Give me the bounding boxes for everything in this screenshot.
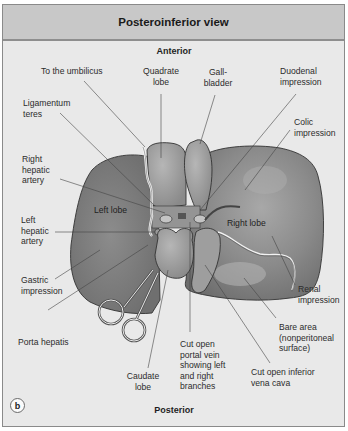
caudate-lobe-shape: [155, 228, 194, 278]
gallbladder-shape: [184, 140, 212, 210]
label-left-hepatic-artery: Left hepatic artery: [21, 215, 49, 247]
label-ligamentum-teres: Ligamentum teres: [23, 98, 70, 119]
label-gastric-impression: Gastric impression: [21, 275, 63, 296]
label-cut-open-portal-vein: Cut open portal vein showing left and ri…: [180, 339, 225, 392]
label-colic-impression: Colic impression: [294, 117, 336, 138]
label-right-lobe: Right lobe: [227, 218, 266, 229]
label-porta-hepatis: Porta hepatis: [18, 337, 69, 348]
label-left-lobe: Left lobe: [94, 205, 127, 216]
label-quadrate-lobe: Quadrate lobe: [141, 66, 181, 87]
label-right-hepatic-artery: Right hepatic artery: [22, 154, 50, 186]
label-caudate-lobe: Caudate lobe: [124, 371, 162, 392]
label-duodenal-impression: Duodenal impression: [280, 66, 322, 87]
label-bare-area: Bare area (nonperitoneal surface): [279, 322, 334, 354]
label-gallbladder: Gall- bladder: [200, 67, 236, 88]
label-to-umbilicus: To the umbilicus: [41, 66, 103, 77]
label-renal-impression: Renal impression: [298, 284, 340, 305]
label-cut-open-inferior-vena-cava: Cut open inferior vena cava: [251, 367, 315, 388]
posterior-label: Posterior: [0, 405, 348, 415]
